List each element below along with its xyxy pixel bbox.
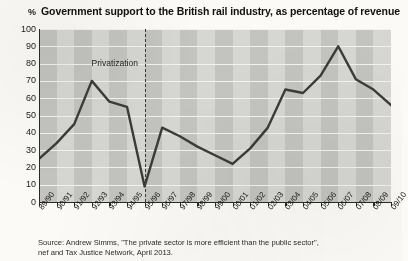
plot-area bbox=[39, 29, 391, 202]
source-line-1: Source: Andrew Simms, "The private secto… bbox=[38, 238, 396, 248]
source-note: Source: Andrew Simms, "The private secto… bbox=[38, 238, 396, 258]
y-axis-tick-label: 100 bbox=[21, 24, 36, 35]
page-title: Government support to the British rail i… bbox=[41, 5, 400, 17]
privatization-marker-line bbox=[145, 29, 146, 202]
source-line-2: nef and Tax Justice Network, April 2013. bbox=[38, 248, 396, 258]
y-axis-tick-label: 20 bbox=[26, 162, 36, 173]
chart-header: % Government support to the British rail… bbox=[28, 5, 398, 17]
percent-symbol: % bbox=[28, 7, 36, 17]
y-axis-tick-label: 70 bbox=[26, 75, 36, 86]
y-axis-tick-label: 0 bbox=[31, 197, 36, 208]
y-axis-tick-label: 60 bbox=[26, 93, 36, 104]
y-axis-tick-label: 10 bbox=[26, 179, 36, 190]
y-axis-tick-label: 90 bbox=[26, 41, 36, 52]
y-axis-tick-label: 80 bbox=[26, 58, 36, 69]
x-axis-tick-label: 09/10 bbox=[389, 190, 408, 211]
y-axis-tick-label: 30 bbox=[26, 145, 36, 156]
x-axis-labels: 89/9090/9191/9292/9393/9494/9595/9696/97… bbox=[39, 206, 391, 236]
y-axis-tick-label: 50 bbox=[26, 110, 36, 121]
series-line bbox=[39, 29, 391, 202]
privatization-label: Privatization bbox=[92, 58, 138, 68]
y-axis-line bbox=[39, 29, 40, 202]
y-axis-labels: 0102030405060708090100 bbox=[10, 23, 36, 208]
y-axis-tick-label: 40 bbox=[26, 127, 36, 138]
